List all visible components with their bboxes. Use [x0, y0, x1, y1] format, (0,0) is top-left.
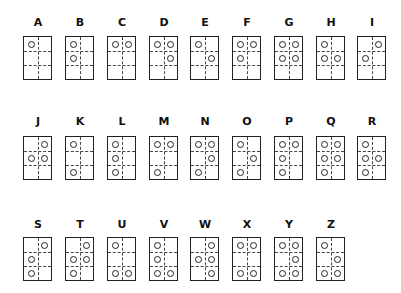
braille-cell-grid	[65, 136, 94, 180]
braille-dot-1-icon	[237, 141, 244, 148]
braille-dot-5-icon	[292, 55, 299, 62]
grid-divider-vertical	[289, 37, 290, 79]
letter-label: K	[65, 116, 95, 128]
grid-divider-horizontal	[150, 51, 177, 52]
braille-cell-grid	[357, 136, 386, 180]
braille-dot-4-icon	[41, 141, 48, 148]
braille-dot-5-icon	[83, 256, 90, 263]
grid-divider-vertical	[38, 37, 39, 79]
braille-dot-4-icon	[375, 41, 382, 48]
braille-dot-4-icon	[250, 242, 257, 249]
grid-divider-horizontal	[233, 165, 260, 166]
braille-dot-1-icon	[237, 41, 244, 48]
braille-dot-5-icon	[334, 55, 341, 62]
braille-dot-3-icon	[237, 270, 244, 277]
grid-divider-horizontal	[317, 165, 344, 166]
grid-divider-horizontal	[275, 151, 302, 152]
grid-divider-vertical	[289, 137, 290, 179]
braille-cell-grid	[274, 36, 303, 80]
braille-cell-grid	[316, 36, 345, 80]
grid-divider-vertical	[80, 137, 81, 179]
grid-divider-horizontal	[108, 151, 135, 152]
grid-divider-horizontal	[150, 165, 177, 166]
braille-dot-4-icon	[167, 141, 174, 148]
braille-dot-4-icon	[208, 242, 215, 249]
grid-divider-vertical	[80, 238, 81, 280]
grid-divider-horizontal	[233, 151, 260, 152]
braille-dot-3-icon	[321, 169, 328, 176]
grid-divider-vertical	[372, 37, 373, 79]
grid-divider-horizontal	[233, 266, 260, 267]
letter-label: M	[149, 116, 179, 128]
braille-dot-1-icon	[70, 141, 77, 148]
braille-dot-1-icon	[279, 242, 286, 249]
letter-label: C	[107, 17, 137, 29]
braille-dot-5-icon	[250, 155, 257, 162]
braille-cell-grid	[232, 36, 261, 80]
braille-dot-4-icon	[208, 141, 215, 148]
braille-cell-grid	[107, 36, 136, 80]
braille-dot-6-icon	[334, 270, 341, 277]
grid-divider-horizontal	[150, 65, 177, 66]
braille-dot-2-icon	[70, 55, 77, 62]
grid-divider-horizontal	[233, 252, 260, 253]
letter-label: G	[274, 17, 304, 29]
braille-dot-6-icon	[167, 270, 174, 277]
grid-divider-horizontal	[24, 51, 51, 52]
grid-divider-horizontal	[358, 65, 385, 66]
braille-cell-grid	[190, 136, 219, 180]
braille-cell-grid	[23, 36, 52, 80]
grid-divider-vertical	[38, 137, 39, 179]
grid-divider-horizontal	[66, 51, 93, 52]
braille-cell-grid	[149, 36, 178, 80]
braille-dot-4-icon	[83, 242, 90, 249]
braille-dot-1-icon	[70, 41, 77, 48]
braille-dot-3-icon	[195, 169, 202, 176]
grid-divider-horizontal	[66, 252, 93, 253]
braille-dot-3-icon	[279, 270, 286, 277]
letter-label: Z	[316, 219, 346, 231]
grid-divider-horizontal	[66, 266, 93, 267]
braille-dot-1-icon	[195, 41, 202, 48]
grid-divider-horizontal	[24, 252, 51, 253]
grid-divider-horizontal	[275, 252, 302, 253]
braille-dot-1-icon	[112, 141, 119, 148]
braille-dot-1-icon	[112, 41, 119, 48]
grid-divider-horizontal	[275, 165, 302, 166]
braille-dot-2-icon	[28, 155, 35, 162]
braille-cell-grid	[232, 237, 261, 281]
braille-dot-1-icon	[112, 242, 119, 249]
braille-dot-1-icon	[321, 41, 328, 48]
grid-divider-vertical	[331, 37, 332, 79]
braille-dot-1-icon	[154, 242, 161, 249]
grid-divider-horizontal	[108, 266, 135, 267]
grid-divider-horizontal	[24, 151, 51, 152]
grid-divider-horizontal	[358, 165, 385, 166]
grid-divider-horizontal	[191, 252, 218, 253]
grid-divider-vertical	[247, 238, 248, 280]
braille-dot-2-icon	[321, 55, 328, 62]
grid-divider-vertical	[205, 137, 206, 179]
letter-label: V	[149, 219, 179, 231]
braille-dot-5-icon	[208, 256, 215, 263]
braille-dot-6-icon	[292, 270, 299, 277]
grid-divider-vertical	[80, 37, 81, 79]
letter-label: Y	[274, 219, 304, 231]
braille-dot-1-icon	[237, 242, 244, 249]
grid-divider-horizontal	[317, 51, 344, 52]
braille-dot-1-icon	[321, 141, 328, 148]
braille-cell-grid	[23, 136, 52, 180]
grid-divider-horizontal	[66, 165, 93, 166]
braille-cell-grid	[232, 136, 261, 180]
braille-dot-3-icon	[112, 270, 119, 277]
braille-cell-grid	[65, 237, 94, 281]
letter-label: L	[107, 116, 137, 128]
grid-divider-horizontal	[317, 65, 344, 66]
grid-divider-vertical	[205, 238, 206, 280]
letter-label: W	[190, 219, 220, 231]
grid-divider-horizontal	[108, 65, 135, 66]
grid-divider-horizontal	[24, 266, 51, 267]
braille-dot-4-icon	[167, 41, 174, 48]
grid-divider-horizontal	[108, 165, 135, 166]
grid-divider-horizontal	[108, 51, 135, 52]
